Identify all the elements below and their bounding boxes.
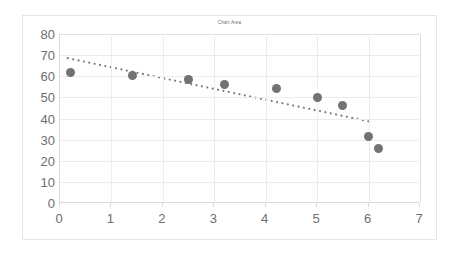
- y-axis-tick-label: 50: [25, 91, 55, 104]
- data-point-marker[interactable]: [313, 93, 322, 102]
- plot-area[interactable]: [59, 34, 419, 203]
- gridline-horizontal: [60, 76, 419, 77]
- x-axis-tick: [316, 203, 317, 207]
- x-axis-tick-labels: 01234567: [59, 212, 419, 230]
- y-axis-tick-label: 10: [25, 175, 55, 188]
- x-axis-tick-label: 4: [252, 212, 278, 225]
- gridline-vertical: [369, 34, 370, 202]
- x-axis-tick-label: 2: [149, 212, 175, 225]
- y-axis-tick-label: 80: [25, 28, 55, 41]
- data-point-marker[interactable]: [128, 71, 137, 80]
- x-axis-ticks: [59, 203, 419, 208]
- x-axis-tick-label: 3: [200, 212, 226, 225]
- gridline-vertical: [266, 34, 267, 202]
- y-axis-tick-label: 60: [25, 70, 55, 83]
- gridline-horizontal: [60, 97, 419, 98]
- gridline-horizontal: [60, 182, 419, 183]
- x-axis-tick: [162, 203, 163, 207]
- data-point-marker[interactable]: [66, 68, 75, 77]
- data-point-marker[interactable]: [184, 75, 193, 84]
- x-axis-tick: [368, 203, 369, 207]
- y-axis-tick-label: 30: [25, 133, 55, 146]
- gridline-horizontal: [60, 119, 419, 120]
- chart-card[interactable]: Chart Area 01020304050607080 01234567: [22, 15, 437, 240]
- x-axis-tick-label: 7: [406, 212, 432, 225]
- gridline-vertical: [214, 34, 215, 202]
- x-axis-tick-label: 5: [303, 212, 329, 225]
- gridline-vertical: [111, 34, 112, 202]
- data-point-marker[interactable]: [272, 84, 281, 93]
- gridline-vertical: [163, 34, 164, 202]
- data-point-marker[interactable]: [220, 80, 229, 89]
- chart-title: Chart Area: [23, 20, 436, 25]
- x-axis-tick: [213, 203, 214, 207]
- x-axis-tick: [265, 203, 266, 207]
- y-axis-tick-labels: 01020304050607080: [23, 34, 55, 203]
- x-axis-tick-label: 0: [46, 212, 72, 225]
- gridline-horizontal: [60, 55, 419, 56]
- x-axis-tick: [419, 203, 420, 207]
- x-axis-tick: [110, 203, 111, 207]
- x-axis-tick: [59, 203, 60, 207]
- gridline-horizontal: [60, 161, 419, 162]
- data-point-marker[interactable]: [364, 132, 373, 141]
- data-point-marker[interactable]: [338, 101, 347, 110]
- gridline-horizontal: [60, 34, 419, 35]
- gridline-vertical: [420, 34, 421, 202]
- y-axis-tick-label: 40: [25, 112, 55, 125]
- y-axis-tick-label: 70: [25, 49, 55, 62]
- y-axis-tick-label: 0: [25, 197, 55, 210]
- x-axis-tick-label: 1: [97, 212, 123, 225]
- data-point-marker[interactable]: [374, 144, 383, 153]
- x-axis-tick-label: 6: [355, 212, 381, 225]
- y-axis-tick-label: 20: [25, 154, 55, 167]
- gridline-vertical: [317, 34, 318, 202]
